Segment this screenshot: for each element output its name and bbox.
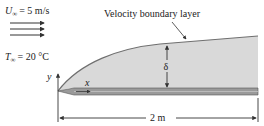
flow-arrows	[10, 23, 44, 35]
y-axis-label: y	[46, 71, 52, 82]
x-axis-label: x	[84, 77, 90, 88]
boundary-layer-diagram: U∞= 5 m/s T∞= 20 °C Velocity boundary la…	[0, 0, 264, 126]
boundary-layer-pointer	[172, 22, 186, 39]
freestream-temperature-label: T∞= 20 °C	[5, 51, 49, 64]
thickness-symbol: δ	[164, 61, 169, 72]
plate-length-label: 2 m	[150, 112, 166, 123]
boundary-layer-label: Velocity boundary layer	[104, 8, 201, 19]
freestream-velocity-label: U∞= 5 m/s	[5, 5, 49, 18]
